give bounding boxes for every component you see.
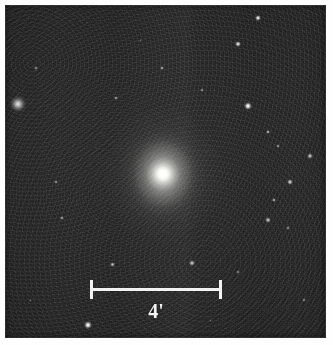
film-grain-noise-fine: [5, 5, 326, 338]
figure-page: 4': [0, 0, 333, 345]
sky-image: 4': [5, 5, 326, 338]
